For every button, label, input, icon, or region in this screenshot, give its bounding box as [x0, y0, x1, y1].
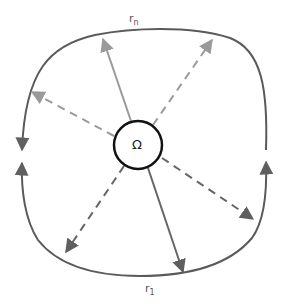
ray-r1 [148, 168, 183, 272]
label-rn-sub: n [134, 18, 139, 27]
ray-ne [153, 40, 212, 125]
diagram-canvas [0, 0, 284, 307]
boundary-left-lower-arc [22, 163, 140, 276]
ray-rn [103, 39, 131, 121]
boundary-right-lower-arc [140, 162, 266, 276]
label-rn: rn [129, 13, 139, 27]
ray-se [162, 158, 253, 219]
ray-sw [66, 166, 124, 252]
omega-symbol: Ω [132, 137, 142, 152]
label-r1: r1 [145, 283, 155, 297]
label-r1-sub: 1 [150, 288, 155, 297]
ray-nw [32, 92, 114, 136]
